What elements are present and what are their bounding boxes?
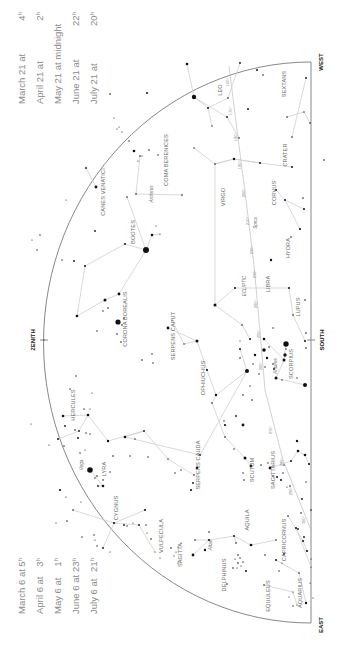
constellation-label: SERPENS CAUDA [195,440,201,489]
constellation-label: CORVUS [271,181,277,206]
star-icon [237,554,239,556]
constellation-label: COMA BERENICES [163,134,169,186]
star-icon [235,415,237,417]
constellation-label: DELPHINUS [221,558,227,591]
constellation-label: BOOTES [130,220,136,244]
named-star-label: Spica [253,217,258,229]
star-icon [104,299,107,302]
star-icon [272,327,273,328]
star-icon [135,193,137,195]
star-icon [278,570,279,571]
timetable-bottom-time-3: 23h [70,558,81,572]
star-icon [208,531,210,533]
constellation-line [73,510,145,523]
star-icon [134,438,135,439]
star-icon [113,117,114,118]
star-icon [254,354,256,356]
star-icon [240,565,241,566]
star-icon [89,408,90,409]
star-icon [297,450,300,453]
constellation-line [136,156,182,195]
timetable-top: March 21 at April 21 at May 21 at midnig… [16,12,99,104]
star-icon [128,140,129,141]
constellation-line [187,63,240,108]
star-icon [207,107,209,109]
constellation-line [194,97,239,138]
star-icon [121,131,122,132]
star-icon [89,433,90,434]
star-icon [159,233,160,234]
constellation-label: AQUILA [244,509,250,530]
constellation-lines [58,63,311,605]
star-icon [280,479,282,481]
constellation-label: CORONA BOREALIS [122,291,128,346]
star-icon [124,436,127,439]
star-icon [78,430,80,432]
named-star-label: Vega [79,459,84,470]
constellation-label: SCUTUM [249,457,255,482]
star-icon [302,197,304,199]
star-icon [306,550,308,552]
star-icon [305,332,307,334]
star-icon [299,228,301,230]
star-icon [239,62,241,64]
star-icon [116,333,118,335]
star-icon [36,249,37,250]
star-icon [57,438,59,440]
star-icon [292,314,294,316]
star-icon [281,379,282,380]
ecliptic-degree-label: 280° [279,457,284,466]
star-icon [81,536,82,537]
star-icon [258,373,259,374]
constellation-label: CANES VENATICI [100,168,106,216]
star-icon [283,353,286,356]
star-icon [141,155,142,156]
constellation-line [292,78,306,137]
constellation-line [77,250,146,316]
constellation-label: SAGITTARIUS [270,451,276,489]
star-icon [107,307,109,309]
star-icon [284,199,286,201]
star-icon [77,437,79,439]
star-icon [94,539,95,540]
star-icon [296,377,297,378]
star-icon [242,472,243,473]
star-icon [65,199,66,200]
star-icon [237,562,239,564]
star-icon [227,97,229,99]
star-icon [243,479,245,481]
star-icon [74,429,76,431]
constellation-line [139,525,155,552]
star-icon [109,551,110,552]
star-icon [96,545,97,546]
star-icon [301,498,303,500]
star-icon [298,572,300,574]
constellation-line [146,234,160,250]
star-icon [305,602,307,604]
star-icon [192,482,194,484]
named-star-label: Altair [208,539,213,551]
timetable-bottom-time-2: 1h [52,558,63,567]
named-star-labels: ArcturusSpicaAntaresVegaAltair [79,185,278,551]
star-icon [126,196,128,198]
timetable-top-time-4: 20h [88,12,99,26]
constellation-line [287,112,310,123]
star-icon [232,567,234,569]
star-icon [242,424,245,427]
star-icon [233,535,235,537]
star-icon [305,347,307,349]
star-icon [31,239,32,240]
star-icon [281,562,282,563]
star-icon [250,544,253,547]
star-icon [83,408,84,409]
named-star-label: Antares [273,357,278,375]
star-icon [211,402,213,404]
star-icon [262,74,264,76]
star-icon [159,557,160,558]
star-icon [186,63,189,66]
star-icon [291,166,293,168]
star-icon [287,515,289,517]
constellation-label: CAPRICORNUS [281,519,287,562]
star-icon [39,234,40,235]
star-icon [138,524,140,526]
